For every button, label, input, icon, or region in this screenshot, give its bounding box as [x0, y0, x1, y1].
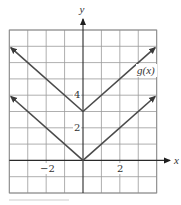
absolute-value-graph: x y 4 2 −2 2 g(x) [0, 0, 181, 205]
g-of-x-label: g(x) [137, 64, 155, 77]
x-axis-label: x [173, 154, 179, 166]
f-of-x-right-ray [83, 97, 155, 161]
g-of-x-left-ray [11, 48, 83, 112]
caption-artifact [9, 199, 69, 201]
f-of-x-left-ray [11, 97, 83, 161]
x-tick-neg2: −2 [40, 163, 55, 174]
y-axis-label: y [79, 3, 85, 15]
g-of-x-right-ray [83, 48, 155, 112]
y-tick-2: 2 [74, 122, 80, 133]
x-tick-2: 2 [117, 163, 123, 174]
y-tick-4: 4 [74, 89, 80, 100]
